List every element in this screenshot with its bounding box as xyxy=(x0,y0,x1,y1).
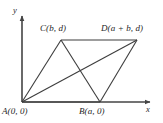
edge-C-A xyxy=(22,40,61,102)
edge-B-D xyxy=(100,40,137,102)
vertex-label-D: D(a + b, d) xyxy=(101,24,143,33)
diagonal-A-D xyxy=(22,40,137,102)
y-axis-label: y xyxy=(13,6,17,15)
vertex-label-B: B(a, 0) xyxy=(79,107,105,116)
vertex-label-A: A(0, 0) xyxy=(2,107,28,116)
geometry-figure: C(b, d) D(a + b, d) A(0, 0) B(a, 0) y x xyxy=(0,0,163,123)
vertex-label-C: C(b, d) xyxy=(40,24,66,33)
figure-canvas xyxy=(0,0,163,123)
diagonal-B-C xyxy=(61,40,100,102)
x-axis-label: x xyxy=(146,105,150,114)
